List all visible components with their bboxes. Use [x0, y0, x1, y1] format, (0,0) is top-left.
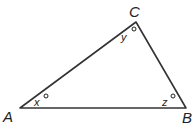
angle-label-y: y	[120, 31, 128, 43]
degree-icon-z	[171, 94, 175, 98]
vertex-label-b: B	[182, 109, 192, 126]
vertex-label-a: A	[2, 108, 13, 125]
angle-label-x: x	[33, 96, 40, 108]
vertex-label-c: C	[129, 3, 140, 20]
triangle-diagram: A B C x y z	[0, 0, 194, 126]
degree-icon-x	[44, 94, 48, 98]
angle-label-z: z	[161, 96, 168, 108]
degree-icon-y	[132, 27, 136, 31]
